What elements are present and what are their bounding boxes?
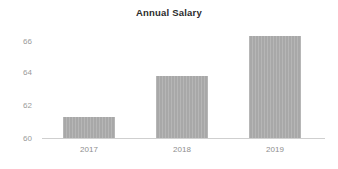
bar-2018 <box>156 76 208 138</box>
y-tick-label-66: 66 <box>23 37 32 46</box>
bar-2019 <box>249 36 301 139</box>
x-tick-label-2018: 2018 <box>173 145 191 154</box>
x-axis: 2017 2018 2019 <box>42 142 325 162</box>
y-axis: 66 64 62 60 <box>0 18 40 138</box>
x-tick-label-2019: 2019 <box>266 145 284 154</box>
x-axis-line <box>42 138 325 139</box>
bar-2017 <box>63 117 115 138</box>
y-tick-label-64: 64 <box>23 68 32 77</box>
x-tick-label-2017: 2017 <box>80 145 98 154</box>
y-tick-label-60: 60 <box>23 134 32 143</box>
plot-area <box>42 18 325 138</box>
y-tick-label-62: 62 <box>23 101 32 110</box>
chart-title: Annual Salary <box>0 7 338 18</box>
bar-chart: Annual Salary 66 64 62 60 2017 2018 2019 <box>0 0 338 169</box>
